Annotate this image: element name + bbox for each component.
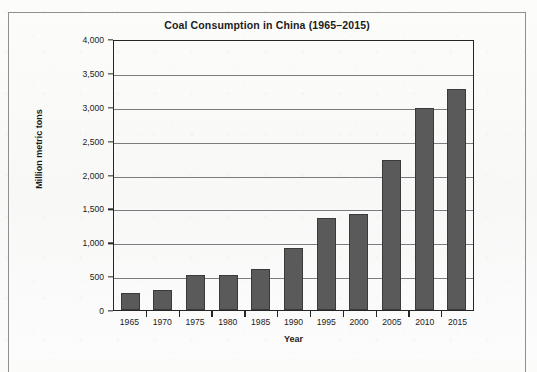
bar-1980 (219, 275, 238, 310)
bar-slot (342, 41, 375, 310)
x-axis-tick-label: 1995 (310, 317, 343, 331)
bar-slot (212, 41, 245, 310)
bar-slot (245, 41, 278, 310)
y-axis-tick-label: 4,000 (60, 35, 104, 45)
y-axis-tick-label: 0 (60, 306, 104, 316)
x-axis-tick-label: 1985 (244, 317, 277, 331)
bar-1975 (186, 275, 205, 310)
x-axis-tick-label: 1980 (211, 317, 244, 331)
bar-1985 (251, 269, 270, 310)
bar-slot (310, 41, 343, 310)
x-axis-tick-label: 2015 (441, 317, 474, 331)
y-axis-tick-label: 2,500 (60, 137, 104, 147)
bar-2010 (415, 108, 434, 310)
x-axis-tick-label: 2010 (408, 317, 441, 331)
bar-2015 (447, 89, 466, 310)
bar-chart-figure: Coal Consumption in China (1965–2015) Mi… (8, 12, 526, 358)
bar-1970 (153, 290, 172, 310)
bar-1990 (284, 248, 303, 310)
bar-2000 (349, 214, 368, 310)
chart-title: Coal Consumption in China (1965–2015) (8, 19, 526, 31)
y-axis-tick-label: 3,500 (60, 69, 104, 79)
bar-slot (277, 41, 310, 310)
bar-slot (375, 41, 408, 310)
plot-area (113, 40, 474, 311)
y-axis-tick-label: 2,000 (60, 171, 104, 181)
bar-1965 (121, 293, 140, 310)
x-axis-title: Year (113, 334, 474, 344)
bar-2005 (382, 160, 401, 310)
bar-slot (147, 41, 180, 310)
y-axis-tick-label: 3,000 (60, 103, 104, 113)
bar-slot (179, 41, 212, 310)
x-axis-tick-label: 1965 (113, 317, 146, 331)
x-axis-tick-label: 1975 (179, 317, 212, 331)
y-axis-title: Million metric tons (34, 89, 44, 209)
x-axis-tick-label: 1970 (146, 317, 179, 331)
bar-slot (440, 41, 473, 310)
x-axis-tick-labels: 1965197019751980198519901995200020052010… (113, 317, 474, 331)
y-axis-ticks: 05001,0001,5002,0002,5003,0003,5004,000 (60, 40, 113, 311)
bar-series (114, 41, 473, 310)
bar-slot (408, 41, 441, 310)
bar-1995 (317, 218, 336, 310)
y-axis-tick-label: 500 (60, 272, 104, 282)
y-axis-tick-label: 1,500 (60, 204, 104, 214)
y-axis-tick-label: 1,000 (60, 238, 104, 248)
x-axis-tick-label: 2000 (343, 317, 376, 331)
x-axis-tick-label: 1990 (277, 317, 310, 331)
x-axis-tick-label: 2005 (376, 317, 409, 331)
bar-slot (114, 41, 147, 310)
